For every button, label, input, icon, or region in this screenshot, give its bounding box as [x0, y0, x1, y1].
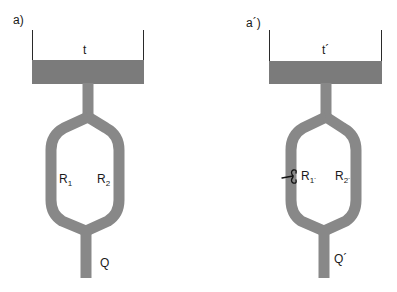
branch-1-resistance-label: R1´: [301, 169, 317, 185]
tank-label: t´: [322, 43, 329, 57]
branch-2-resistance-label: R2: [97, 172, 111, 188]
outflow-label: Q´: [334, 252, 347, 266]
panel-a: a) t R1 R2 Q: [13, 13, 144, 278]
reservoir-fluid: [269, 61, 382, 84]
branch-2-resistance-label: R2´: [335, 169, 351, 185]
panel-a-prime: a´) t´ R1´ R2´ Q´: [246, 16, 382, 278]
branch-1-pipe: [51, 117, 88, 231]
branch-1-resistance-label: R1: [59, 172, 73, 188]
parallel-resistance-diagram: a) t R1 R2 Q a´) t´: [0, 0, 397, 292]
tank-label: t: [83, 43, 87, 57]
reservoir-container: [269, 30, 382, 84]
reservoir-container: [32, 30, 144, 84]
reservoir-fluid: [32, 60, 144, 84]
panel-a-label: a): [13, 13, 24, 27]
panel-a-prime-label: a´): [246, 16, 261, 30]
outflow-label: Q: [100, 256, 109, 270]
